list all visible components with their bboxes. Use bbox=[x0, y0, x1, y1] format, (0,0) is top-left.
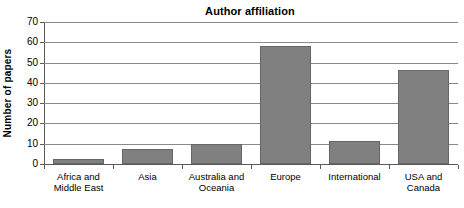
y-axis-tick-label: 10 bbox=[4, 139, 38, 149]
plot-area bbox=[44, 22, 458, 164]
x-axis-category-label-line: International bbox=[320, 171, 389, 182]
x-axis-tick-mark bbox=[44, 165, 45, 169]
bar bbox=[122, 149, 173, 164]
x-axis-tick-mark bbox=[320, 165, 321, 169]
x-axis-category-label: USA and Canada bbox=[389, 171, 458, 193]
x-axis-tick-mark bbox=[113, 165, 114, 169]
x-axis-category-label-line: Europe bbox=[251, 171, 320, 182]
x-axis-category-label: Europe bbox=[251, 171, 320, 182]
bar bbox=[398, 70, 449, 164]
gridline bbox=[44, 22, 458, 23]
x-axis-category-label-line: Australia and bbox=[182, 171, 251, 182]
y-axis-tick-label: 50 bbox=[4, 58, 38, 68]
gridline bbox=[44, 144, 458, 145]
x-axis-category-label-line: Asia bbox=[113, 171, 182, 182]
y-axis-tick-label: 30 bbox=[4, 98, 38, 108]
bar bbox=[191, 144, 242, 164]
bar bbox=[260, 46, 311, 164]
y-axis-tick-label: 0 bbox=[4, 159, 38, 169]
y-axis-tick-label: 60 bbox=[4, 37, 38, 47]
x-axis-category-label: International bbox=[320, 171, 389, 182]
x-axis-category-label-line: USA and Canada bbox=[389, 171, 458, 193]
y-axis-tick-label: 40 bbox=[4, 78, 38, 88]
x-axis-category-label: Asia bbox=[113, 171, 182, 182]
x-axis-category-label-line: Middle East bbox=[44, 182, 113, 193]
y-axis-tick-label: 20 bbox=[4, 118, 38, 128]
chart-title: Author affiliation bbox=[40, 5, 460, 17]
bar-chart: Author affiliation Number of papers 0102… bbox=[0, 0, 464, 208]
x-axis-category-label: Australia andOceania bbox=[182, 171, 251, 193]
x-axis-category-label-line: Oceania bbox=[182, 182, 251, 193]
x-axis-category-label: Africa andMiddle East bbox=[44, 171, 113, 193]
gridline bbox=[44, 123, 458, 124]
y-axis-tick-label: 70 bbox=[4, 17, 38, 27]
x-axis-tick-mark bbox=[389, 165, 390, 169]
gridline bbox=[44, 63, 458, 64]
bar bbox=[329, 141, 380, 164]
x-axis-tick-mark bbox=[182, 165, 183, 169]
gridline bbox=[44, 42, 458, 43]
bar bbox=[53, 159, 104, 164]
gridline bbox=[44, 83, 458, 84]
gridline bbox=[44, 103, 458, 104]
x-axis-category-label-line: Africa and bbox=[44, 171, 113, 182]
x-axis-tick-mark bbox=[458, 165, 459, 169]
x-axis-tick-mark bbox=[251, 165, 252, 169]
